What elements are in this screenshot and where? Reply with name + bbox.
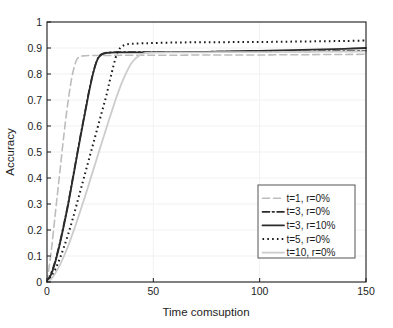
y-axis-title: Accuracy (4, 128, 16, 176)
y-tick-label: 0.8 (27, 68, 42, 80)
legend-label-1: t=3, r=0% (287, 206, 330, 217)
x-tick-label: 100 (251, 285, 269, 297)
y-tick-label: 0.5 (27, 146, 42, 158)
y-tick-label: 0.4 (27, 172, 42, 184)
y-tick-label: 0.6 (27, 120, 42, 132)
x-tick-label: 0 (44, 285, 50, 297)
chart-figure: 050100150 00.10.20.30.40.50.60.70.80.91 … (0, 0, 393, 328)
chart-legend: t=1, r=0%t=3, r=0%t=3, r=10%t=5, r=0%t=1… (258, 185, 355, 258)
x-tick-label: 150 (357, 285, 375, 297)
y-tick-label: 0 (36, 276, 42, 288)
y-tick-label: 1 (36, 16, 42, 28)
y-tick-label: 0.3 (27, 198, 42, 210)
legend-label-4: t=10, r=0% (287, 247, 336, 258)
y-tick-label: 0.7 (27, 94, 42, 106)
x-axis-title: Time comsuption (162, 306, 249, 318)
legend-label-0: t=1, r=0% (287, 193, 330, 204)
line-chart: 050100150 00.10.20.30.40.50.60.70.80.91 … (0, 0, 393, 328)
legend-label-2: t=3, r=10% (287, 220, 336, 231)
x-tick-label: 50 (147, 285, 159, 297)
y-tick-label: 0.9 (27, 42, 42, 54)
y-tick-label: 0.1 (27, 250, 42, 262)
legend-label-3: t=5, r=0% (287, 234, 330, 245)
y-tick-label: 0.2 (27, 224, 42, 236)
